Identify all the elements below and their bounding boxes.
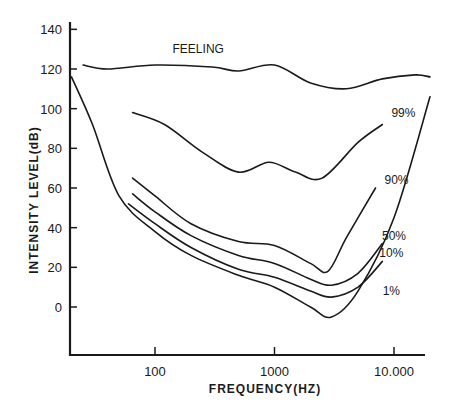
curves	[72, 65, 431, 318]
y-tick-label: 80	[48, 141, 62, 156]
x-axis-title: FREQUENCY(HZ)	[209, 382, 321, 396]
curve-99pct	[133, 113, 383, 180]
annotations: FEELING99%90%50%10%1%	[173, 42, 416, 298]
y-tick-label: 40	[48, 221, 62, 236]
curve-10pct	[129, 204, 383, 297]
axis-lines	[70, 22, 425, 355]
curve-label: 1%	[383, 284, 401, 298]
y-axis-title: INTENSITY LEVEL(dB)	[27, 126, 41, 273]
y-tick-label: 20	[48, 260, 62, 275]
curve-label: 50%	[382, 229, 406, 243]
y-tick-label: 60	[48, 181, 62, 196]
y-tick-label: 140	[40, 22, 62, 37]
y-tick-label: 100	[40, 102, 62, 117]
curve-feeling	[83, 65, 430, 89]
chart: 140120100806040200100100010.000 FEELING9…	[0, 0, 451, 415]
y-tick-label: 120	[40, 62, 62, 77]
curve-label: 10%	[379, 246, 403, 260]
x-tick-label: 1000	[260, 364, 289, 379]
curve-1pct	[72, 77, 431, 318]
curve-label: FEELING	[173, 42, 224, 56]
curve-label: 90%	[385, 173, 409, 187]
x-tick-label: 100	[144, 364, 166, 379]
curve-label: 99%	[391, 106, 415, 120]
x-tick-label: 10.000	[374, 364, 414, 379]
y-tick-label: 0	[55, 300, 62, 315]
